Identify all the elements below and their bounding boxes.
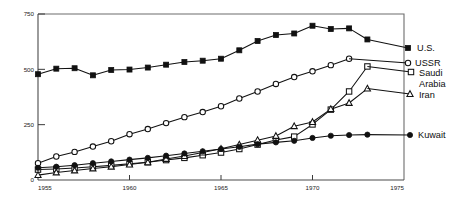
legend-marker-u-s- [406,46,411,51]
series-saudi-arabia [35,64,370,173]
x-tick-label: 1955 [38,184,52,191]
x-tick-label: 1975 [390,184,404,191]
legend-marker-kuwait [407,132,412,137]
x-tick-label: 1970 [306,184,320,191]
y-tick-label: 750 [24,10,35,17]
series-kuwait [35,132,370,170]
line-chart-plot: 19551960196519701975 0250500750 U.S.USSR… [0,0,457,201]
legend-label-ussr: USSR [415,58,441,68]
series-ussr [35,56,352,166]
x-tick-label: 1965 [214,184,228,191]
legend-label-saudi: Saudi [419,68,443,78]
y-tick-label: 0 [31,176,35,183]
axis-tickmarks [38,14,313,180]
legend-label-arabia: Arabia [419,79,446,89]
x-tick-label: 1960 [123,184,137,191]
legend-marker-ussr [405,60,410,65]
chart-legend: U.S.USSRSaudiArabiaIranKuwait [349,39,446,140]
y-tick-label: 250 [24,121,35,128]
legend-label-u-s-: U.S. [417,43,435,53]
legend-label-iran: Iran [419,90,435,100]
legend-label-kuwait: Kuwait [418,130,446,140]
data-series-group [35,23,371,177]
legend-marker-saudi [408,69,413,74]
x-axis-tick-labels: 19551960196519701975 [38,184,405,191]
series-u-s [36,23,370,78]
y-axis-tick-labels: 0250500750 [24,10,35,183]
y-tick-label: 500 [24,66,35,73]
chart-container: 19551960196519701975 0250500750 U.S.USSR… [0,0,457,201]
